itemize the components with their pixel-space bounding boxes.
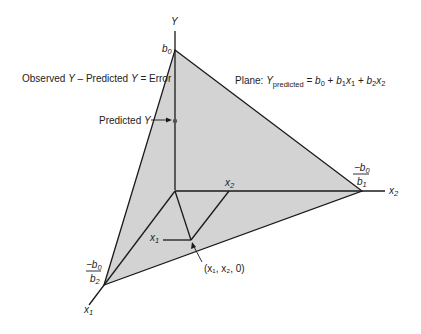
x2-intercept-label: −b0 b1	[353, 162, 370, 189]
b0-label: b0	[162, 43, 173, 56]
plane-equation: Plane: Ypredicted = b0 + b1x1 + b2x2	[235, 75, 385, 89]
svg-text:−b0: −b0	[86, 259, 102, 272]
predicted-y-point	[173, 119, 177, 123]
error-annotation: Observed Y – Predicted Y = Error	[22, 73, 172, 84]
point-coordinate-label: (x₁, x₂, 0)	[204, 263, 245, 274]
svg-text:−b0: −b0	[354, 162, 370, 175]
predicted-y-label: Predicted Y	[99, 115, 152, 126]
x1-axis-label: x1	[83, 304, 93, 317]
y-axis-label: Y	[171, 16, 179, 27]
x1-intercept-label: −b0 b2	[86, 259, 102, 286]
svg-text:b2: b2	[90, 273, 101, 286]
x2-axis-label: x2	[388, 185, 399, 198]
svg-text:b1: b1	[357, 176, 367, 189]
regression-plane-diagram: Y b0 Observed Y – Predicted Y = Error Pr…	[0, 0, 421, 334]
